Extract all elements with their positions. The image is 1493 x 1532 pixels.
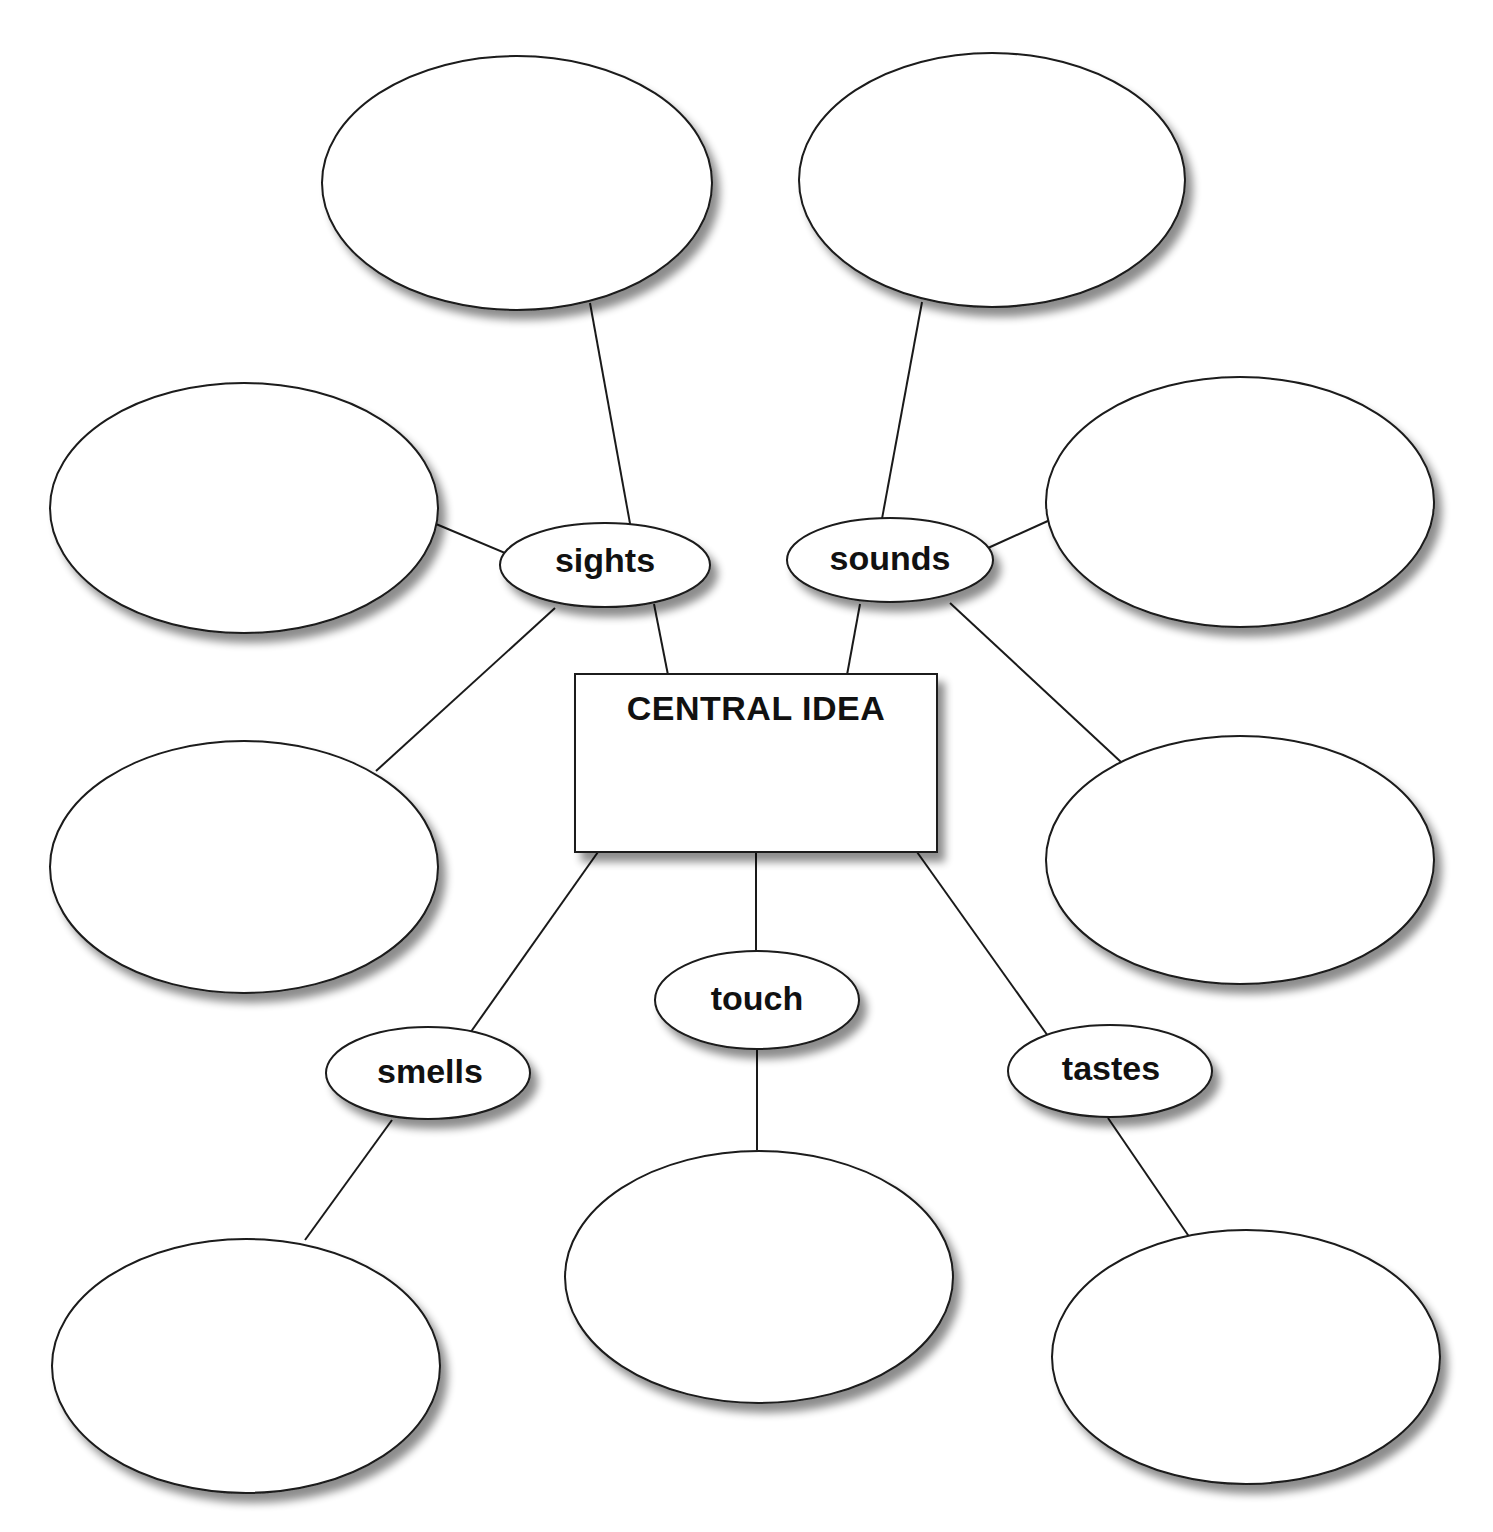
detail-bubble-sounds-lower-right[interactable] [1046,736,1434,984]
detail-bubble-sights-top[interactable] [322,56,712,310]
sense-label-sights: sights [555,541,655,579]
connector-smells-bottom [305,1120,392,1240]
detail-bubble-sights-left[interactable] [50,383,438,633]
detail-bubble-tastes-bottom[interactable] [1052,1230,1440,1484]
central-idea-title: CENTRAL IDEA [627,689,886,727]
connector-sights-central [654,604,668,675]
connector-sounds-central [847,604,860,675]
connector-sights-top [590,303,633,540]
detail-bubble-sounds-right[interactable] [1046,377,1434,627]
detail-bubble-sounds-top[interactable] [799,53,1185,307]
sensory-web-diagram: CENTRAL IDEA sights sounds touch smells … [0,0,1493,1532]
connector-central-smells [463,852,598,1043]
connector-central-tastes [917,852,1048,1036]
connector-sounds-right [988,520,1050,548]
detail-bubble-smells-bottom[interactable] [52,1239,440,1493]
connector-tastes-bottom [1108,1118,1190,1238]
detail-bubble-touch-bottom[interactable] [565,1151,953,1403]
connector-sounds-top [879,302,922,535]
connector-sights-lowerleft [376,608,555,771]
connector-sights-left [436,524,510,555]
sense-label-smells: smells [377,1052,483,1090]
sense-label-sounds: sounds [830,539,951,577]
sense-label-touch: touch [711,979,804,1017]
sense-label-tastes: tastes [1062,1049,1160,1087]
detail-bubble-sights-lower-left[interactable] [50,741,438,993]
connector-sounds-lowerright [950,603,1121,762]
